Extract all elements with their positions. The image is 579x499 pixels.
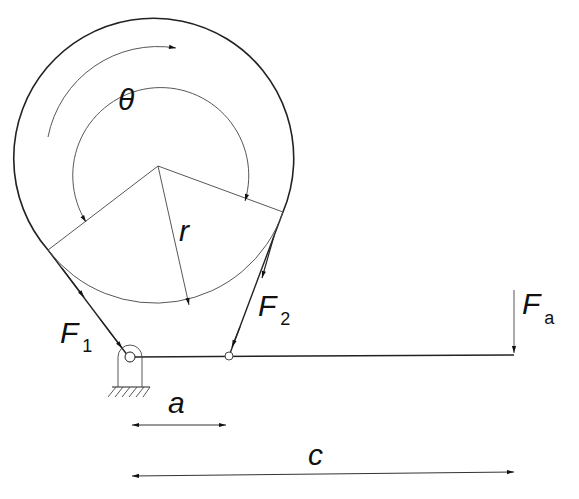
force2-label: F 2 (258, 289, 290, 329)
force2-arrow-end (232, 327, 240, 347)
dimension-a-label: a (168, 386, 185, 419)
fixed-pivot (108, 345, 150, 397)
applied-force-label: F a (522, 287, 555, 328)
radial-lines (48, 166, 283, 250)
lever-arm (134, 355, 514, 357)
force1-arrow-mid (62, 268, 84, 297)
band-pin (225, 352, 233, 360)
force1-label: F 1 (60, 316, 92, 356)
brake-band (14, 18, 294, 356)
ground-hatch (108, 387, 150, 397)
theta-label: θ (118, 83, 135, 116)
force1-arrow-end (100, 319, 122, 348)
drum-lower-arc (48, 212, 283, 303)
dimension-c (132, 472, 514, 476)
radius-label: r (179, 214, 190, 247)
theta-arc (73, 88, 249, 222)
dimension-c-label: c (308, 438, 323, 471)
band-brake-diagram: θ r F 1 F 2 F a a c (0, 0, 579, 499)
